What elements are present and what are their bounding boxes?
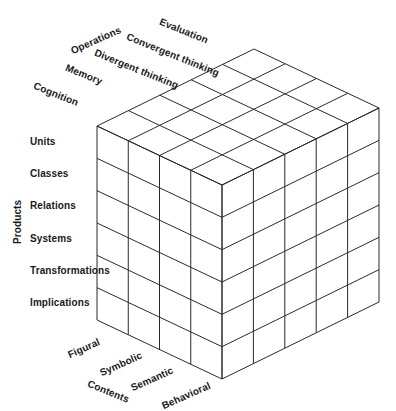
top-face-line <box>160 95 285 154</box>
product-label-transformations: Transformations <box>30 265 110 276</box>
right-face-line <box>222 302 379 379</box>
right-face-line <box>222 140 379 217</box>
right-face-line <box>222 205 379 282</box>
products-axis-label: Products <box>12 200 23 244</box>
product-label-classes: Classes <box>30 168 69 179</box>
top-face-line <box>223 64 348 123</box>
top-face-line <box>191 80 316 139</box>
product-label-relations: Relations <box>30 200 76 211</box>
right-face-line <box>222 270 379 347</box>
product-label-units: Units <box>30 136 56 147</box>
right-face-line <box>222 108 379 185</box>
right-face-line <box>222 237 379 314</box>
top-face-line <box>254 49 379 108</box>
top-face-line <box>191 93 348 170</box>
product-label-implications: Implications <box>30 297 90 308</box>
right-face-line <box>222 173 379 250</box>
product-label-systems: Systems <box>30 233 72 244</box>
top-face-line <box>160 79 317 156</box>
top-face-line <box>128 111 253 170</box>
